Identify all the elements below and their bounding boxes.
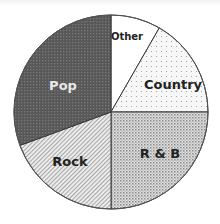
pie-slices [14,15,208,209]
pie-chart [0,0,220,224]
pie-slice-r-b [111,112,208,209]
